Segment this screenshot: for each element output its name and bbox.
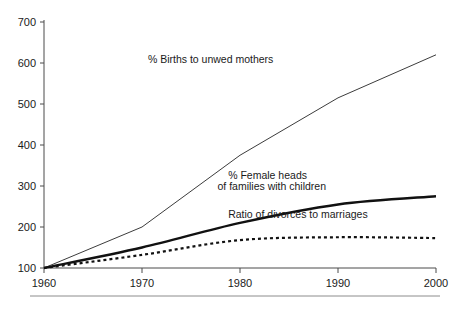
y-tick-label: 300 xyxy=(18,180,36,192)
y-tick-label: 400 xyxy=(18,139,36,151)
series-annotation-label: of families with children xyxy=(218,180,327,192)
x-tick-label: 1990 xyxy=(326,277,350,289)
y-tick-label: 500 xyxy=(18,98,36,110)
series-layer xyxy=(44,55,436,268)
chart-container: 100200300400500600700 196019701980199020… xyxy=(0,0,465,310)
series-line-2 xyxy=(44,196,436,268)
line-chart: 100200300400500600700 196019701980199020… xyxy=(0,0,465,310)
y-axis: 100200300400500600700 xyxy=(18,16,44,274)
x-tick-label: 1980 xyxy=(228,277,252,289)
y-tick-label: 700 xyxy=(18,16,36,28)
x-axis: 19601970198019902000 xyxy=(32,268,448,289)
y-tick-label: 600 xyxy=(18,57,36,69)
y-tick-label: 200 xyxy=(18,221,36,233)
x-tick-label: 2000 xyxy=(424,277,448,289)
series-annotation-label: Ratio of divorces to marriages xyxy=(228,208,367,220)
series-line-3 xyxy=(44,237,436,268)
series-annotation-label: % Births to unwed mothers xyxy=(148,53,273,65)
y-tick-label: 100 xyxy=(18,262,36,274)
series-annotation-label: % Female heads xyxy=(228,169,307,181)
x-tick-label: 1970 xyxy=(130,277,154,289)
series-line-1 xyxy=(44,55,436,268)
annotation-layer: % Births to unwed mothers% Female headso… xyxy=(148,53,368,220)
x-tick-label: 1960 xyxy=(32,277,56,289)
